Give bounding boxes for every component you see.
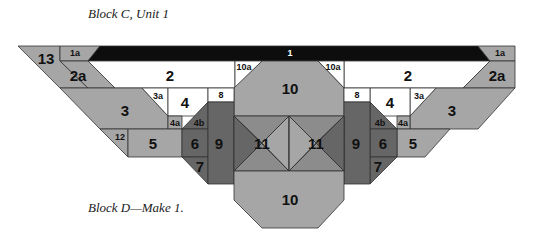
piece-label: 10 xyxy=(282,191,299,208)
piece-label: 6 xyxy=(191,135,199,152)
piece-label: 6 xyxy=(379,135,387,152)
block-d-caption: Block D—Make 1. xyxy=(88,200,184,216)
piece-label: 13 xyxy=(38,50,55,67)
piece-label: 3 xyxy=(121,102,129,119)
piece-label: 4a xyxy=(398,118,409,128)
piece-label: 8 xyxy=(218,90,223,100)
piece-label: 4 xyxy=(386,94,395,111)
piece-label: 2 xyxy=(166,67,174,84)
piece-label: 4 xyxy=(181,94,190,111)
piece-5-right xyxy=(397,129,450,157)
piece-label: 10a xyxy=(325,62,341,72)
piece-label: 3a xyxy=(153,91,164,101)
piece-label: 1 xyxy=(287,48,292,58)
piece-label: 7 xyxy=(374,158,382,175)
piece-label: 7 xyxy=(196,158,204,175)
piece-label: 3a xyxy=(414,91,425,101)
quilt-block-diagram: 131a2a11a222a10a10a1033a48843a34a4b4b4a1… xyxy=(0,0,543,234)
piece-label: 4a xyxy=(170,118,181,128)
piece-label: 11 xyxy=(254,135,270,152)
piece-label: 2a xyxy=(489,67,506,84)
piece-label: 9 xyxy=(352,135,360,152)
piece-label: 1a xyxy=(495,48,506,58)
piece-label: 2a xyxy=(70,67,87,84)
piece-label: 9 xyxy=(215,135,223,152)
piece-label: 8 xyxy=(354,90,359,100)
piece-label: 4b xyxy=(375,118,386,128)
piece-label: 10a xyxy=(236,62,252,72)
piece-label: 1a xyxy=(70,48,81,58)
piece-label: 10 xyxy=(282,80,299,97)
piece-label: 4b xyxy=(194,118,205,128)
piece-label: 12 xyxy=(115,132,125,142)
piece-label: 2 xyxy=(404,67,412,84)
piece-label: 3 xyxy=(448,102,456,119)
piece-label: 5 xyxy=(149,135,157,152)
piece-label: 5 xyxy=(409,135,417,152)
piece-label: 11 xyxy=(308,135,324,152)
